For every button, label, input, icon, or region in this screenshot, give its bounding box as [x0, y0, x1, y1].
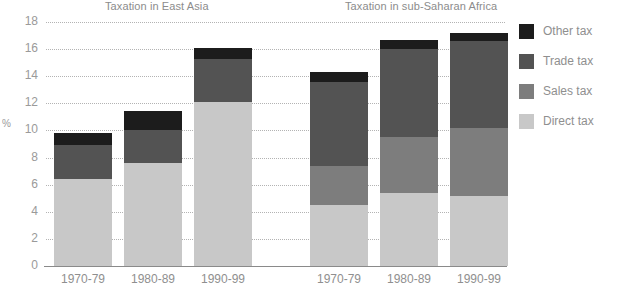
y-tick-label-18: 18 [16, 15, 38, 27]
y-tick-label-8: 8 [16, 151, 38, 163]
legend-swatch-icon [519, 84, 534, 99]
legend-swatch-icon [519, 54, 534, 69]
bar-segment-sales-tax[interactable] [380, 137, 438, 193]
bar-east_asia-1990-99[interactable] [194, 48, 252, 266]
bar-segment-trade-tax[interactable] [310, 82, 368, 166]
legend-label: Sales tax [543, 84, 592, 98]
bar-segment-direct-tax[interactable] [450, 196, 508, 266]
bar-segment-direct-tax[interactable] [124, 163, 182, 266]
legend-label: Direct tax [543, 114, 594, 128]
y-tick-label-14: 14 [16, 69, 38, 81]
legend-item-direct-tax[interactable]: Direct tax [519, 106, 637, 136]
y-tick-label-2: 2 [16, 232, 38, 244]
x-label-africa-1990-99: 1990-99 [444, 272, 514, 286]
bar-segment-direct-tax[interactable] [310, 205, 368, 266]
panel-title-east-asia: Taxation in East Asia [105, 0, 209, 12]
bar-africa-1980-89[interactable] [380, 40, 438, 266]
bar-segment-sales-tax[interactable] [310, 166, 368, 205]
plot-area [46, 22, 505, 266]
bar-east_asia-1980-89[interactable] [124, 111, 182, 266]
bar-segment-trade-tax[interactable] [380, 49, 438, 137]
bar-segment-trade-tax[interactable] [124, 130, 182, 163]
stacked-bar-chart: Taxation in East Asia Taxation in sub-Sa… [0, 0, 640, 292]
bar-segment-other-tax[interactable] [450, 33, 508, 41]
x-label-africa-1970-79: 1970-79 [304, 272, 374, 286]
legend-label: Other tax [543, 24, 592, 38]
bar-east_asia-1970-79[interactable] [54, 133, 112, 266]
y-tick-label-4: 4 [16, 205, 38, 217]
x-label-east_asia-1970-79: 1970-79 [48, 272, 118, 286]
gridline-18 [46, 22, 505, 23]
bar-segment-sales-tax[interactable] [450, 128, 508, 196]
bar-segment-other-tax[interactable] [54, 133, 112, 145]
bar-africa-1990-99[interactable] [450, 33, 508, 266]
bar-segment-direct-tax[interactable] [54, 179, 112, 266]
x-axis-line [44, 266, 507, 267]
y-tick-label-10: 10 [16, 123, 38, 135]
legend-swatch-icon [519, 114, 534, 129]
legend-swatch-icon [519, 24, 534, 39]
bar-segment-other-tax[interactable] [124, 111, 182, 130]
panel-title-sub-saharan-africa: Taxation in sub-Saharan Africa [345, 0, 497, 12]
bar-africa-1970-79[interactable] [310, 72, 368, 266]
legend-item-trade-tax[interactable]: Trade tax [519, 46, 637, 76]
legend: Other taxTrade taxSales taxDirect tax [519, 16, 637, 136]
bar-segment-other-tax[interactable] [194, 48, 252, 59]
y-axis-label: % [2, 118, 11, 129]
y-tick-label-16: 16 [16, 42, 38, 54]
y-axis-ticks: 024681012141618 [14, 22, 38, 266]
x-label-east_asia-1980-89: 1980-89 [118, 272, 188, 286]
x-label-east_asia-1990-99: 1990-99 [188, 272, 258, 286]
legend-item-other-tax[interactable]: Other tax [519, 16, 637, 46]
bar-segment-trade-tax[interactable] [54, 145, 112, 179]
y-tick-label-12: 12 [16, 96, 38, 108]
y-tick-label-6: 6 [16, 178, 38, 190]
bar-segment-direct-tax[interactable] [194, 102, 252, 266]
x-label-africa-1980-89: 1980-89 [374, 272, 444, 286]
bar-segment-trade-tax[interactable] [194, 59, 252, 102]
bar-segment-other-tax[interactable] [310, 72, 368, 81]
legend-label: Trade tax [543, 54, 593, 68]
bar-segment-direct-tax[interactable] [380, 193, 438, 266]
bar-segment-trade-tax[interactable] [450, 41, 508, 128]
legend-item-sales-tax[interactable]: Sales tax [519, 76, 637, 106]
bar-segment-other-tax[interactable] [380, 40, 438, 49]
y-tick-label-0: 0 [16, 259, 38, 271]
